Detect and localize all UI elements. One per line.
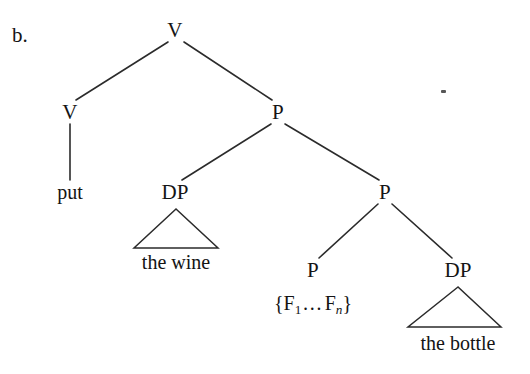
scan-artifact-speck	[441, 90, 446, 93]
branch-middle-p-to-lower-p	[319, 204, 378, 258]
terminal-the-bottle: the bottle	[421, 333, 496, 353]
feature-set-open-brace: {F	[274, 292, 295, 314]
terminal-feature-set: {F1…Fn}	[274, 293, 352, 313]
branch-upper-p-to-wine-dp	[182, 124, 271, 180]
node-left-v: V	[62, 102, 77, 123]
node-upper-p: P	[272, 102, 284, 123]
syntax-tree-figure: b. V V P DP P P DP put	[0, 0, 530, 374]
node-root-v: V	[167, 20, 182, 41]
terminal-put: put	[57, 182, 83, 202]
branch-root-v-to-left-v	[76, 42, 168, 100]
triangle-the-bottle	[408, 287, 501, 327]
triangle-the-wine	[134, 209, 218, 248]
feature-set-subscript-last: n	[336, 302, 343, 317]
node-lower-p: P	[307, 260, 319, 281]
branch-middle-p-to-bottle-dp	[392, 204, 452, 258]
node-bottle-dp: DP	[444, 260, 471, 281]
branch-root-v-to-upper-p	[184, 42, 272, 100]
branch-upper-p-to-middle-p	[285, 124, 379, 180]
feature-set-subscript-first: 1	[295, 302, 302, 317]
feature-set-close-brace: }	[342, 292, 352, 314]
feature-set-mid-symbol: F	[325, 292, 336, 314]
terminal-the-wine: the wine	[142, 252, 210, 272]
node-wine-dp: DP	[161, 182, 188, 203]
node-middle-p: P	[379, 182, 391, 203]
feature-set-ellipsis: …	[301, 292, 324, 314]
